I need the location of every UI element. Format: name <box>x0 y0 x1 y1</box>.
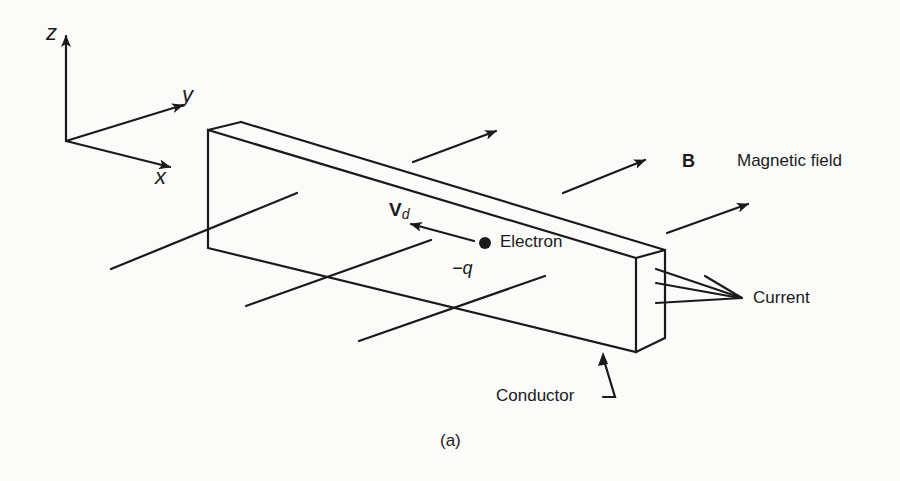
x-axis-label: x <box>155 164 166 190</box>
figure-caption: (a) <box>440 431 461 451</box>
drift-velocity-label: Vd <box>389 199 409 222</box>
current-arrows <box>656 269 742 303</box>
magnetic-field-arrows <box>413 131 748 233</box>
z-axis-label: z <box>46 20 57 46</box>
magnetic-field-lines <box>111 193 545 341</box>
magnetic-field-label: Magnetic field <box>737 151 842 171</box>
magnetic-field-symbol: B <box>682 151 695 172</box>
conductor-label: Conductor <box>496 386 574 406</box>
conductor-bar <box>208 122 665 352</box>
hall-effect-diagram: z y x B Magnetic field Vd Electron −q Cu… <box>0 0 900 481</box>
electron-dot <box>479 237 491 249</box>
drift-velocity-arrow <box>411 224 474 241</box>
charge-label: −q <box>452 258 473 279</box>
y-axis-label: y <box>182 82 193 108</box>
electron-label: Electron <box>500 232 562 252</box>
diagram-drawing <box>0 0 900 481</box>
current-label: Current <box>753 288 810 308</box>
coordinate-axes-icon <box>66 36 183 167</box>
